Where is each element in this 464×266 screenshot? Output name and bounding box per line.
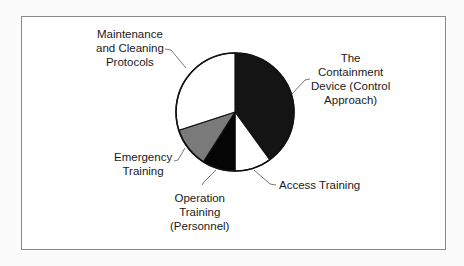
leader-access: [254, 170, 276, 185]
label-line: (Personnel): [170, 219, 229, 233]
label-line: Device (Control: [311, 79, 390, 93]
label-line: Training: [170, 205, 229, 219]
label-containment: The Containment Device (Control Approach…: [311, 51, 390, 107]
label-emergency: Emergency Training: [114, 150, 172, 178]
leader-maintenance: [165, 49, 186, 68]
label-line: Access Training: [279, 178, 360, 192]
label-line: Training: [114, 164, 172, 178]
label-maintenance: Maintenance and Cleaning Protocols: [96, 27, 164, 69]
leader-operation: [202, 170, 216, 185]
label-access: Access Training: [279, 178, 360, 192]
label-line: Emergency: [114, 150, 172, 164]
leader-containment: [292, 79, 310, 94]
label-line: Maintenance: [96, 27, 164, 41]
label-line: The: [311, 51, 390, 65]
label-operation: Operation Training (Personnel): [170, 191, 229, 233]
label-line: Operation: [170, 191, 229, 205]
label-line: Approach): [311, 93, 390, 107]
label-line: Protocols: [96, 55, 164, 69]
leader-emergency: [174, 148, 185, 161]
label-line: Containment: [311, 65, 390, 79]
pie-chart: [0, 0, 464, 266]
label-line: and Cleaning: [96, 41, 164, 55]
